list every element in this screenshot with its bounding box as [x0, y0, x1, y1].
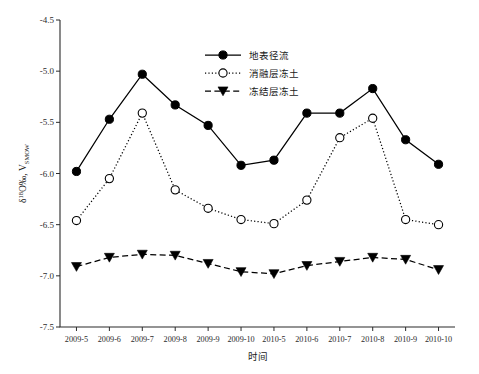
- data-point: [369, 84, 377, 92]
- y-tick-label: -6.5: [40, 220, 55, 230]
- data-point: [204, 121, 212, 129]
- legend-label: 消融层冻土: [249, 68, 299, 79]
- legend-item-2[interactable]: 消融层冻土: [205, 68, 299, 79]
- legend-marker: [219, 69, 227, 77]
- y-axis-ticks: -4.5-5.0-5.5-6.0-6.5-7.0-7.5: [40, 15, 60, 332]
- x-tick-label: 2010-7: [328, 335, 351, 344]
- data-point: [105, 115, 113, 123]
- data-point: [72, 167, 80, 175]
- data-point: [303, 109, 311, 117]
- y-tick-label: -6.0: [40, 169, 55, 179]
- data-point: [105, 175, 113, 183]
- legend-item-3[interactable]: 冻结层冻土: [205, 86, 299, 97]
- data-point: [270, 220, 278, 228]
- data-point: [434, 221, 442, 229]
- data-point: [434, 160, 442, 168]
- y-axis-title: δ18O‰, VSMOW: [17, 143, 30, 203]
- y-tick-label: -5.5: [40, 117, 55, 127]
- axis-spine: [60, 20, 455, 327]
- data-point: [138, 109, 146, 117]
- data-point: [336, 109, 344, 117]
- x-tick-label: 2009-8: [164, 335, 187, 344]
- data-point: [72, 216, 80, 224]
- x-tick-label: 2010-5: [262, 335, 285, 344]
- series-line: [76, 254, 438, 273]
- x-tick-label: 2009-9: [197, 335, 220, 344]
- data-point: [369, 114, 377, 122]
- data-point: [171, 101, 179, 109]
- data-point: [204, 204, 212, 212]
- x-axis-title: 时间: [248, 351, 268, 362]
- y-tick-label: -5.0: [40, 66, 55, 76]
- x-tick-label: 2010-8: [361, 335, 384, 344]
- x-tick-label: 2009-10: [227, 335, 254, 344]
- y-tick-label: -7.0: [40, 271, 55, 281]
- axes: [60, 20, 455, 327]
- legend: 地表径流消融层冻土冻结层冻土: [205, 50, 299, 97]
- data-point: [171, 186, 179, 194]
- y-tick-label: -4.5: [40, 15, 55, 25]
- chart-container: -4.5-5.0-5.5-6.0-6.5-7.0-7.52009-52009-6…: [0, 0, 479, 374]
- data-point: [104, 253, 114, 262]
- data-point: [402, 136, 410, 144]
- x-axis-ticks: 2009-52009-62009-72009-82009-92009-10201…: [65, 327, 452, 344]
- chart-svg: -4.5-5.0-5.5-6.0-6.5-7.0-7.52009-52009-6…: [0, 0, 479, 374]
- x-tick-label: 2009-5: [65, 335, 88, 344]
- data-point: [71, 263, 81, 272]
- series-layer: [71, 70, 443, 278]
- x-tick-label: 2010-9: [394, 335, 417, 344]
- data-point: [237, 161, 245, 169]
- x-tick-label: 2009-7: [131, 335, 154, 344]
- series-2: [72, 109, 442, 229]
- legend-item-1[interactable]: 地表径流: [205, 50, 289, 61]
- data-point: [434, 266, 444, 275]
- legend-label: 冻结层冻土: [249, 86, 299, 97]
- legend-label: 地表径流: [249, 50, 289, 61]
- data-point: [336, 134, 344, 142]
- x-tick-label: 2009-6: [98, 335, 121, 344]
- series-3: [71, 250, 443, 278]
- data-point: [237, 215, 245, 223]
- data-point: [402, 215, 410, 223]
- data-point: [270, 156, 278, 164]
- data-point: [303, 196, 311, 204]
- x-tick-label: 2010-10: [425, 335, 452, 344]
- legend-marker: [219, 51, 227, 59]
- y-tick-label: -7.5: [40, 322, 55, 332]
- data-point: [138, 70, 146, 78]
- series-line: [76, 113, 438, 225]
- x-tick-label: 2010-6: [295, 335, 318, 344]
